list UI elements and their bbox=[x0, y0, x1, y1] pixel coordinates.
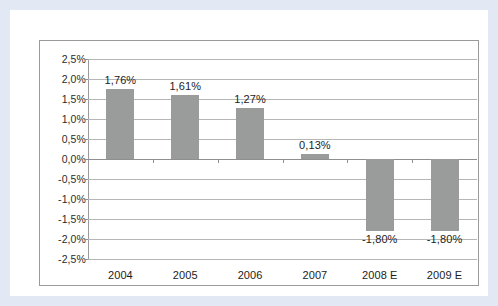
gridline bbox=[88, 179, 477, 180]
gridline bbox=[88, 139, 477, 140]
gridline bbox=[88, 99, 477, 100]
gridline bbox=[88, 199, 477, 200]
y-axis-tick-mark bbox=[84, 139, 88, 140]
gridline bbox=[88, 59, 477, 60]
gridline bbox=[88, 79, 477, 80]
x-axis-category-label: 2007 bbox=[302, 269, 327, 281]
x-axis-category-label: 2006 bbox=[238, 269, 263, 281]
bar-value-label: 0,13% bbox=[299, 139, 331, 151]
y-axis-tick-label: 0,0% bbox=[42, 153, 86, 165]
y-axis-tick-mark bbox=[84, 239, 88, 240]
y-axis-tick-label: 1,5% bbox=[42, 93, 86, 105]
bar-value-label: -1,80% bbox=[427, 233, 462, 245]
x-axis-tick-mark bbox=[153, 159, 154, 163]
y-axis-tick-label: 1,0% bbox=[42, 113, 86, 125]
x-axis-tick-mark bbox=[412, 159, 413, 163]
x-axis-labels: 20042005200620072008 E2009 E bbox=[88, 269, 477, 287]
x-axis-tick-mark bbox=[283, 159, 284, 163]
x-axis-category-label: 2009 E bbox=[427, 269, 462, 281]
y-axis-labels: 2,5%2,0%1,5%1,0%0,5%0,0%-0,5%-1,0%-1,5%-… bbox=[40, 59, 86, 259]
y-axis-tick-mark bbox=[84, 219, 88, 220]
page-inner-white-area: 2,5%2,0%1,5%1,0%0,5%0,0%-0,5%-1,0%-1,5%-… bbox=[10, 10, 488, 296]
bar bbox=[171, 95, 199, 159]
y-axis-tick-label: -0,5% bbox=[42, 173, 86, 185]
y-axis-tick-label: -1,5% bbox=[42, 213, 86, 225]
bar bbox=[366, 159, 394, 231]
y-axis-tick-mark bbox=[84, 59, 88, 60]
gridline bbox=[88, 239, 477, 240]
gridline bbox=[88, 119, 477, 120]
x-axis-category-label: 2004 bbox=[108, 269, 133, 281]
bar-value-label: 1,61% bbox=[169, 80, 201, 92]
bar bbox=[106, 89, 134, 159]
y-axis-tick-mark bbox=[84, 199, 88, 200]
y-axis-tick-label: -2,5% bbox=[42, 253, 86, 265]
bar bbox=[236, 108, 264, 159]
gridline bbox=[88, 219, 477, 220]
y-axis-tick-mark bbox=[84, 79, 88, 80]
y-axis-tick-mark bbox=[84, 179, 88, 180]
y-axis-tick-label: 2,5% bbox=[42, 53, 86, 65]
bar-value-label: -1,80% bbox=[362, 233, 397, 245]
x-axis-tick-mark bbox=[347, 159, 348, 163]
bar bbox=[301, 154, 329, 159]
bar bbox=[431, 159, 459, 231]
plot-area: 1,76%1,61%1,27%0,13%-1,80%-1,80% bbox=[88, 59, 477, 259]
y-axis-tick-label: -2,0% bbox=[42, 233, 86, 245]
page-background-frame: 2,5%2,0%1,5%1,0%0,5%0,0%-0,5%-1,0%-1,5%-… bbox=[0, 0, 498, 306]
bar-value-label: 1,76% bbox=[105, 74, 137, 86]
y-axis-tick-mark bbox=[84, 119, 88, 120]
y-axis-tick-mark bbox=[84, 259, 88, 260]
bar-value-label: 1,27% bbox=[234, 93, 266, 105]
y-axis-tick-mark bbox=[84, 99, 88, 100]
y-axis-tick-label: -1,0% bbox=[42, 193, 86, 205]
y-axis-tick-mark bbox=[84, 159, 88, 160]
y-axis-tick-label: 0,5% bbox=[42, 133, 86, 145]
chart-container: 2,5%2,0%1,5%1,0%0,5%0,0%-0,5%-1,0%-1,5%-… bbox=[39, 40, 479, 286]
y-axis-tick-label: 2,0% bbox=[42, 73, 86, 85]
x-axis-tick-mark bbox=[218, 159, 219, 163]
gridline bbox=[88, 259, 477, 260]
x-axis-category-label: 2005 bbox=[173, 269, 198, 281]
x-axis-category-label: 2008 E bbox=[362, 269, 397, 281]
